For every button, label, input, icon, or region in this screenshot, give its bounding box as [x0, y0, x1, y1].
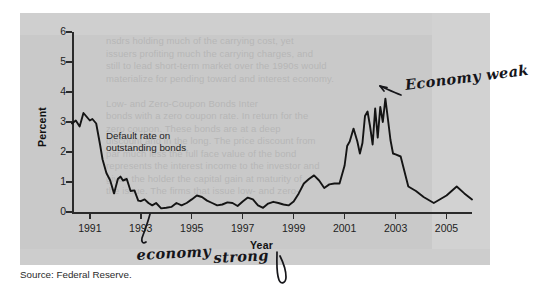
source-note: Source: Federal Reserve.: [20, 269, 132, 280]
series-line-default-rate: [72, 99, 472, 209]
figure-panel: nsdrs holding much of the carrying cost,…: [20, 13, 490, 265]
plot-area: Percent Year 0123456 1991199319951997199…: [20, 13, 490, 265]
handwriting-strong: strong: [213, 246, 269, 266]
figure-screenshot: nsdrs holding much of the carrying cost,…: [0, 0, 543, 297]
data-line-chart: [20, 13, 490, 265]
